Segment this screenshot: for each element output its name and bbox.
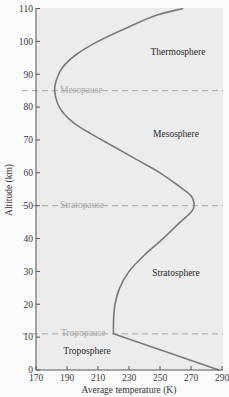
mesopause-label: Mesopause <box>60 85 103 95</box>
temperature-altitude-chart: 0102030405060708090100110 17019021023025… <box>0 0 229 397</box>
x-axis-title: Average temperature (K) <box>82 385 177 396</box>
y-tick-label: 40 <box>24 234 34 244</box>
x-tick-label: 250 <box>153 373 168 383</box>
stratopause-label: Stratopause <box>60 200 104 210</box>
x-tick-label: 170 <box>29 373 44 383</box>
y-tick-label: 50 <box>24 201 34 211</box>
troposphere-label: Troposphere <box>63 346 111 356</box>
y-axis-title: Altitude (km) <box>4 164 15 216</box>
x-tick-label: 270 <box>184 373 199 383</box>
plot-area <box>36 8 223 370</box>
thermosphere-label: Thermosphere <box>151 47 206 57</box>
y-tick-label: 10 <box>24 332 34 342</box>
y-tick-label: 90 <box>24 70 34 80</box>
y-tick-label: 30 <box>24 267 34 277</box>
tropopause-label: Tropopause <box>61 328 106 338</box>
x-tick-label: 210 <box>91 373 106 383</box>
x-tick-label: 290 <box>215 373 229 383</box>
y-tick-label: 80 <box>24 102 34 112</box>
y-tick-label: 20 <box>24 300 34 310</box>
x-tick-label: 190 <box>60 373 75 383</box>
y-tick-label: 110 <box>19 4 33 14</box>
y-tick-label: 60 <box>24 168 34 178</box>
y-tick-label: 100 <box>19 37 34 47</box>
stratosphere-label: Stratosphere <box>152 268 200 278</box>
mesosphere-label: Mesosphere <box>153 129 199 139</box>
y-tick-label: 70 <box>24 135 34 145</box>
x-tick-label: 230 <box>122 373 137 383</box>
